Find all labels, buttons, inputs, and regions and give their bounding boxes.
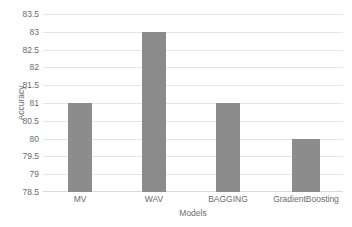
bar-mv[interactable] xyxy=(68,103,92,192)
x-axis-tick-labels: MV WAV BAGGING GradientBoosting xyxy=(43,193,343,207)
x-axis-title: Models xyxy=(43,207,343,219)
y-tick-label: 81 xyxy=(3,99,39,108)
y-tick-label: 80 xyxy=(3,135,39,144)
y-tick-label: 79 xyxy=(3,170,39,179)
y-tick-label: 83.5 xyxy=(3,10,39,19)
y-tick-label: 80.5 xyxy=(3,117,39,126)
y-tick-label: 81.5 xyxy=(3,81,39,90)
gridline xyxy=(43,50,343,51)
bar-wav[interactable] xyxy=(142,32,166,192)
plot-area xyxy=(43,14,343,192)
y-axis-tick-labels: 83.5 83 82.5 82 81.5 81 80.5 80 79.5 79 … xyxy=(0,14,39,192)
y-tick-label: 78.5 xyxy=(3,188,39,197)
y-tick-label: 83 xyxy=(3,28,39,37)
bar-bagging[interactable] xyxy=(216,103,240,192)
gridline xyxy=(43,14,343,15)
bar-chart: Accuracy 83.5 83 82.5 82 81.5 81 80.5 80… xyxy=(0,0,352,227)
y-tick-label: 82 xyxy=(3,63,39,72)
y-tick-label: 79.5 xyxy=(3,152,39,161)
gridline xyxy=(43,85,343,86)
gridline xyxy=(43,32,343,33)
gridline xyxy=(43,67,343,68)
x-tick-label-gradientboosting: GradientBoosting xyxy=(261,193,351,206)
bar-gradientboosting[interactable] xyxy=(292,139,320,192)
y-tick-label: 82.5 xyxy=(3,46,39,55)
x-tick-label-bagging: BAGGING xyxy=(183,193,273,206)
